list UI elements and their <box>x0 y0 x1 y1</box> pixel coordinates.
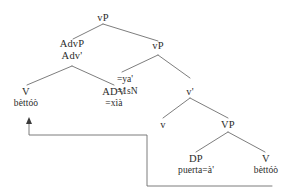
movement-arrowhead <box>26 117 32 124</box>
branch-innervp-to-clitic <box>122 55 158 72</box>
node-label: vP <box>97 12 109 24</box>
branch-root-to-inner-vp <box>103 24 158 41</box>
node-v-bar: v' <box>186 86 194 98</box>
node-inner-vp: vP <box>152 40 164 52</box>
node-word: bèttóò <box>14 98 38 109</box>
node-label: DP <box>178 153 214 165</box>
branch-vp-to-v <box>228 132 265 152</box>
branch-root-to-advp <box>73 24 103 39</box>
clitic-meaning: =1sN <box>117 86 138 98</box>
node-label: v' <box>186 86 194 98</box>
node-advp: AdvP Adv' <box>60 38 85 63</box>
node-label: VP <box>221 119 235 131</box>
node-word: =xìà <box>102 98 125 109</box>
clitic-form: =ya' <box>117 74 138 86</box>
node-dp: DP puerta=à' <box>178 153 214 177</box>
movement-path <box>29 122 272 186</box>
node-little-v: v <box>160 119 165 131</box>
node-label-adv-bar: Adv' <box>60 50 85 62</box>
branch-innervp-to-vbar <box>158 55 190 78</box>
node-label: V <box>14 86 38 98</box>
branch-advbar-to-v <box>27 66 72 85</box>
node-v-right: V bèttóò <box>254 153 278 177</box>
node-root-vp: vP <box>97 12 109 24</box>
branch-vbar-to-vp <box>190 98 228 118</box>
syntax-tree-figure: vP AdvP Adv' vP V bèttóò ADV =xìà =ya' =… <box>0 0 296 196</box>
branch-advbar-to-adv <box>72 66 114 85</box>
branch-vp-to-dp <box>196 132 228 152</box>
node-label: vP <box>152 40 164 52</box>
node-word: bèttóò <box>254 165 278 176</box>
node-word: puerta=à' <box>178 165 214 176</box>
node-v-left: V bèttóò <box>14 86 38 110</box>
node-label: V <box>254 153 278 165</box>
clitic-gloss: =ya' =1sN <box>117 74 138 98</box>
node-vp: VP <box>221 119 235 131</box>
branch-vbar-to-v <box>163 98 190 118</box>
node-label: v <box>160 119 165 131</box>
tree-branch-lines <box>0 0 296 196</box>
node-label: AdvP <box>60 38 85 50</box>
